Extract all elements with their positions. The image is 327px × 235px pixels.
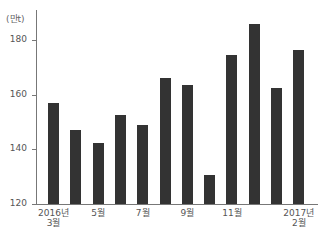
y-tick-label: 180 [3,34,27,44]
x-tick-label: 2016년3월 [34,208,74,228]
y-tick-label: 160 [3,89,27,99]
bar [226,55,237,204]
y-tick [32,40,37,41]
bar [137,125,148,204]
x-axis [36,204,318,205]
x-tick-label-line1: 7월 [123,208,163,218]
x-tick-label-line2: 3월 [34,218,74,228]
x-tick-label-line1: 5월 [78,208,118,218]
x-tick-label-line1: 9월 [167,208,207,218]
bar [182,85,193,204]
y-axis [36,10,37,204]
y-axis-unit-label: (만t) [6,12,25,25]
bar [48,103,59,204]
x-tick-label-line1: 2017년 [279,208,319,218]
x-tick-label: 9월 [167,208,207,218]
y-tick-label: 140 [3,143,27,153]
bar [249,24,260,204]
bar-chart: (만t) 120140160180 2016년3월5월7월9월11월2017년2… [0,0,327,235]
x-tick-label: 2017년2월 [279,208,319,228]
bar [93,143,104,204]
x-tick-label-line1: 2016년 [34,208,74,218]
bar [160,78,171,204]
x-tick-label: 5월 [78,208,118,218]
bar [115,115,126,204]
y-tick [32,204,37,205]
bar [70,130,81,204]
x-tick-label-line2: 2월 [279,218,319,228]
y-tick-label: 120 [3,198,27,208]
y-tick [32,95,37,96]
x-tick-label: 7월 [123,208,163,218]
y-tick [32,149,37,150]
bar [293,50,304,204]
x-tick-label-line1: 11월 [212,208,252,218]
bar [204,175,215,204]
x-tick-label: 11월 [212,208,252,218]
bar [271,88,282,204]
